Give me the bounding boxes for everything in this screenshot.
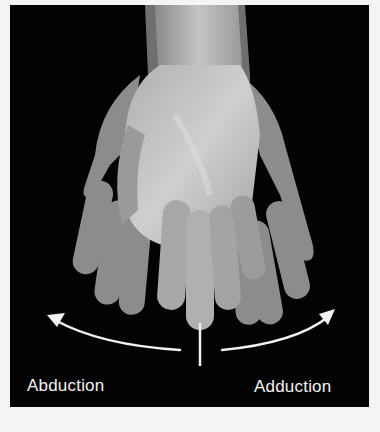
adduction-label: Adduction [254, 377, 331, 397]
abduction-arrow [55, 320, 180, 350]
figure-panel: Abduction Adduction [10, 5, 369, 407]
hand-illustration [10, 5, 369, 407]
abduction-label: Abduction [27, 376, 104, 396]
